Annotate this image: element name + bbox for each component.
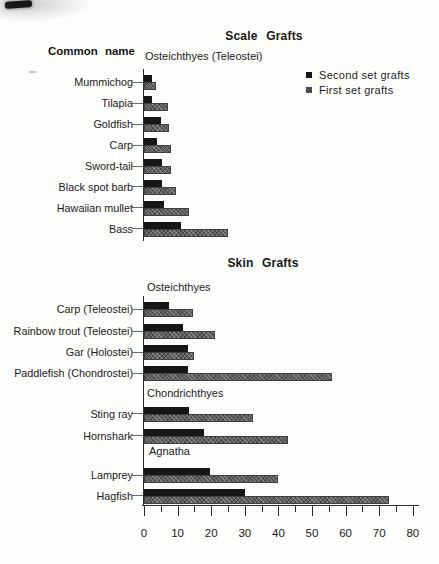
scale-bar-first-set xyxy=(144,103,168,111)
scale-category-tick xyxy=(132,103,143,104)
scale-bar-first-set xyxy=(144,208,189,216)
skin-bar-first-set xyxy=(144,352,194,360)
scale-bar-second-set xyxy=(144,180,162,187)
skin-category-label: Lamprey xyxy=(0,468,133,482)
scale-bar-second-set xyxy=(144,138,157,145)
skin-category-label: Sting ray xyxy=(0,407,133,421)
x-axis-tick-label: 0 xyxy=(129,527,159,539)
scale-category-label: Hawaiian mullet xyxy=(0,201,133,215)
x-axis-major-tick xyxy=(144,506,145,516)
skin-category-tick xyxy=(132,331,143,332)
scale-category-label: Black spot barb xyxy=(0,180,133,194)
skin-group-header: Osteichthyes xyxy=(147,281,211,293)
scale-group-header: Osteichthyes (Teleostei) xyxy=(145,50,262,62)
skin-bar-first-set xyxy=(144,496,389,504)
scale-category-tick xyxy=(132,124,143,125)
legend-label-first-set: First set grafts xyxy=(319,84,393,96)
legend-item-first-set: First set grafts xyxy=(306,82,410,97)
x-axis-minor-tick xyxy=(295,506,296,512)
skin-bar-first-set xyxy=(144,331,215,339)
skin-bar-second-set xyxy=(144,324,183,331)
scale-bar-first-set xyxy=(144,229,228,237)
x-axis-minor-tick xyxy=(161,506,162,512)
skin-group-header: Agnatha xyxy=(149,445,190,457)
x-axis-tick-label: 70 xyxy=(364,527,394,539)
scale-bar-second-set xyxy=(144,201,164,208)
x-axis-major-tick xyxy=(346,506,347,516)
x-axis-minor-tick xyxy=(396,506,397,512)
skin-bar-second-set xyxy=(144,407,189,414)
skin-group-header: Chondrichthyes xyxy=(147,387,223,399)
scale-category-tick xyxy=(132,207,143,208)
scale-bar-first-set xyxy=(144,82,156,90)
scale-category-tick xyxy=(132,145,143,146)
x-axis-major-tick xyxy=(245,506,246,516)
legend: Second set grafts First set grafts xyxy=(306,67,410,97)
skin-bar-second-set xyxy=(144,345,188,352)
skin-category-tick xyxy=(132,352,143,353)
skin-category-tick xyxy=(132,435,143,436)
scale-bar-second-set xyxy=(144,75,152,82)
scale-bar-first-set xyxy=(144,166,171,174)
x-axis-major-tick xyxy=(211,506,212,516)
x-axis-tick-label: 10 xyxy=(163,527,193,539)
common-name-label: Common name xyxy=(0,45,135,57)
skin-category-tick xyxy=(132,413,143,414)
scale-bar-second-set xyxy=(144,96,152,103)
x-axis-tick-label: 80 xyxy=(398,527,428,539)
skin-category-tick xyxy=(132,373,143,374)
skin-category-label: Rainbow trout (Teleostei) xyxy=(0,324,133,338)
skin-bar-first-set xyxy=(144,373,332,381)
scale-bar-second-set xyxy=(144,222,181,229)
scale-category-label: Mummichog xyxy=(0,75,133,89)
x-axis-major-tick xyxy=(413,506,414,516)
skin-category-label: Gar (Holostei) xyxy=(0,345,133,359)
scale-bar-second-set xyxy=(144,117,161,124)
legend-item-second-set: Second set grafts xyxy=(306,67,410,82)
figure: Scale Grafts Common name Osteichthyes (T… xyxy=(0,0,439,564)
skin-category-label: Carp (Teleostei) xyxy=(0,302,133,316)
scan-artifact-dash xyxy=(29,71,36,73)
first-set-square-icon xyxy=(306,87,312,93)
x-axis-line xyxy=(142,505,419,506)
second-set-square-icon xyxy=(306,72,312,78)
scale-category-label: Goldfish xyxy=(0,117,133,131)
scale-category-tick xyxy=(132,166,143,167)
scale-category-label: Sword-tail xyxy=(0,159,133,173)
skin-bar-second-set xyxy=(144,429,204,436)
scale-category-label: Bass xyxy=(0,222,133,236)
x-axis-minor-tick xyxy=(362,506,363,512)
x-axis-tick-label: 30 xyxy=(230,527,260,539)
scale-bar-first-set xyxy=(144,124,169,132)
skin-category-tick xyxy=(132,309,143,310)
skin-bar-first-set xyxy=(144,309,193,317)
x-axis-minor-tick xyxy=(329,506,330,512)
x-axis-tick-label: 40 xyxy=(263,527,293,539)
x-axis-major-tick xyxy=(178,506,179,516)
scale-bar-second-set xyxy=(144,159,162,166)
x-axis-minor-tick xyxy=(262,506,263,512)
skin-category-label: Hornshark xyxy=(0,429,133,443)
scale-category-tick xyxy=(132,186,143,187)
skin-bar-first-set xyxy=(144,475,278,483)
skin-bar-second-set xyxy=(144,302,169,309)
skin-category-tick xyxy=(132,475,143,476)
skin-bar-first-set xyxy=(144,414,253,422)
x-axis-minor-tick xyxy=(194,506,195,512)
skin-bar-second-set xyxy=(144,366,188,373)
scale-category-tick xyxy=(132,82,143,83)
skin-category-label: Hagfish xyxy=(0,489,133,503)
x-axis-tick-label: 50 xyxy=(297,527,327,539)
scale-category-label: Carp xyxy=(0,138,133,152)
skin-bar-second-set xyxy=(144,489,245,496)
x-axis-major-tick xyxy=(278,506,279,516)
x-axis-major-tick xyxy=(312,506,313,516)
x-axis-minor-tick xyxy=(228,506,229,512)
scale-category-label: Tilapia xyxy=(0,96,133,110)
scale-bar-first-set xyxy=(144,145,171,153)
x-axis-tick-label: 20 xyxy=(196,527,226,539)
scale-grafts-title: Scale Grafts xyxy=(149,29,379,43)
skin-category-label: Paddlefish (Chondrostei) xyxy=(0,366,133,380)
legend-label-second-set: Second set grafts xyxy=(319,69,410,81)
scale-bar-first-set xyxy=(144,187,176,195)
